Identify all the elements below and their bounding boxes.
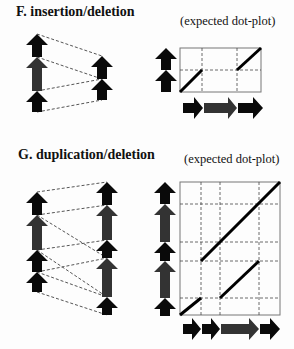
diagram-canvas: .blk { fill:#0a0a0a; } .gry { fill:#333;… (0, 0, 294, 349)
f-left-sequence (26, 34, 48, 112)
g-links (37, 182, 107, 315)
up-arrow-icon (154, 298, 176, 316)
f-links (37, 34, 102, 112)
right-arrow-icon (221, 318, 259, 340)
up-arrow-icon (154, 242, 176, 261)
f-right-sequence (91, 56, 113, 100)
up-arrow-icon (26, 91, 48, 112)
up-arrow-icon (26, 215, 48, 250)
up-arrow-icon (26, 34, 48, 57)
panel-g-dotplot (154, 182, 280, 340)
up-arrow-icon (91, 56, 113, 79)
up-arrow-icon (26, 250, 48, 272)
panel-f-synteny (26, 34, 113, 112)
right-arrow-icon (260, 318, 280, 340)
up-arrow-icon (96, 240, 118, 258)
up-arrow-icon (155, 48, 177, 70)
panel-f-dotplot (155, 48, 263, 119)
g-right-sequence (96, 182, 118, 315)
up-arrow-icon (96, 258, 118, 297)
right-arrow-icon (183, 97, 203, 119)
right-arrow-icon (202, 318, 220, 340)
up-arrow-icon (154, 182, 176, 204)
up-arrow-icon (26, 272, 48, 292)
up-arrow-icon (26, 57, 48, 91)
up-arrow-icon (26, 192, 48, 215)
up-arrow-icon (154, 261, 176, 298)
up-arrow-icon (96, 182, 118, 205)
right-arrow-icon (238, 97, 263, 119)
up-arrow-icon (155, 70, 177, 92)
up-arrow-icon (96, 205, 118, 240)
g-left-sequence (26, 192, 48, 292)
right-arrow-icon (183, 318, 201, 340)
up-arrow-icon (154, 204, 176, 242)
panel-g-synteny (26, 182, 118, 315)
right-arrow-icon (204, 97, 237, 119)
up-arrow-icon (91, 79, 113, 100)
